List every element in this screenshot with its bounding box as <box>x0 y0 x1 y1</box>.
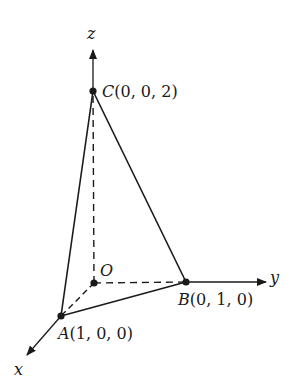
point-A <box>57 312 64 319</box>
edge-CB <box>93 91 186 282</box>
tetrahedron-diagram: z y x C(0, 0, 2) O B(0, 1, 0) A(1, 0, 0) <box>0 0 292 385</box>
edge-OB <box>94 282 186 283</box>
x-axis-label: x <box>14 362 23 378</box>
point-A-coords: (1, 0, 0) <box>70 324 133 343</box>
x-axis <box>27 316 61 355</box>
point-B <box>182 278 189 285</box>
edge-OC <box>93 91 94 283</box>
point-C <box>89 87 96 94</box>
point-B-coords: (0, 1, 0) <box>190 290 253 309</box>
point-C-name: C <box>102 82 114 101</box>
point-O <box>90 279 97 286</box>
point-B-label: B(0, 1, 0) <box>178 292 253 308</box>
point-O-label: O <box>100 263 113 279</box>
diagram-graphics <box>0 0 292 385</box>
y-axis-label: y <box>270 270 279 286</box>
z-axis-label: z <box>87 26 95 42</box>
edge-CA <box>61 91 93 316</box>
point-A-name: A <box>58 324 70 343</box>
edge-AB <box>61 282 186 316</box>
point-B-name: B <box>178 290 190 309</box>
point-C-coords: (0, 0, 2) <box>114 82 177 101</box>
point-C-label: C(0, 0, 2) <box>102 84 178 100</box>
point-A-label: A(1, 0, 0) <box>58 326 133 342</box>
